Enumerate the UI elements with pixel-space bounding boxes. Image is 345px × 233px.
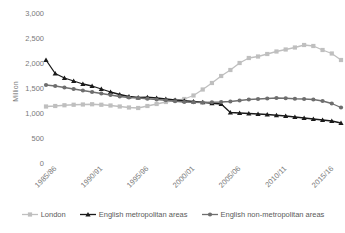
y-axis-tick-label: 0: [0, 159, 44, 168]
data-point-marker: [127, 95, 131, 99]
data-point-marker: [173, 99, 177, 103]
legend-marker-icon: [201, 210, 219, 219]
data-point-marker: [72, 87, 76, 91]
data-point-marker: [155, 97, 159, 101]
data-point-marker: [201, 87, 205, 91]
data-point-marker: [90, 102, 94, 106]
data-point-marker: [228, 68, 232, 72]
y-axis-tick-label: 2,500: [0, 34, 44, 43]
data-point-marker: [118, 94, 122, 98]
plot-area: [46, 14, 341, 164]
x-axis-tick-label: 2015/16: [296, 164, 335, 203]
data-point-marker: [191, 100, 195, 104]
data-point-marker: [330, 101, 334, 105]
data-point-marker: [219, 74, 223, 78]
data-point-marker: [265, 52, 269, 56]
data-point-marker: [108, 93, 112, 97]
data-point-marker: [265, 96, 269, 100]
data-point-marker: [155, 102, 159, 106]
data-point-marker: [62, 103, 66, 107]
data-point-marker: [53, 84, 57, 88]
y-axis-tick-label: 2,000: [0, 59, 44, 68]
data-point-marker: [201, 100, 205, 104]
data-point-marker: [219, 100, 223, 104]
data-point-marker: [339, 105, 343, 109]
data-point-marker: [247, 97, 251, 101]
data-point-marker: [43, 57, 48, 62]
data-point-marker: [118, 104, 122, 108]
data-point-marker: [320, 99, 324, 103]
y-axis-tick-label: 500: [0, 134, 44, 143]
data-point-marker: [99, 103, 103, 107]
data-point-marker: [81, 102, 85, 106]
data-point-marker: [145, 97, 149, 101]
data-point-marker: [145, 104, 149, 108]
data-point-marker: [44, 104, 48, 108]
data-point-marker: [72, 103, 76, 107]
legend-item-london[interactable]: London: [21, 210, 66, 219]
x-axis-tick-labels: 1985/861990/911995/962000/012005/062010/…: [46, 164, 341, 206]
legend-item-english-metropolitan-areas[interactable]: English metropolitan areas: [79, 210, 188, 219]
data-point-marker: [237, 61, 241, 65]
legend-marker-icon: [21, 210, 39, 219]
data-point-marker: [339, 58, 343, 62]
data-point-marker: [62, 85, 66, 89]
y-axis-tick-label: 1,000: [0, 109, 44, 118]
data-point-marker: [311, 44, 315, 48]
data-point-marker: [44, 83, 48, 87]
data-point-marker: [293, 97, 297, 101]
data-point-marker: [274, 96, 278, 100]
legend-item-label: English metropolitan areas: [99, 210, 188, 219]
data-point-marker: [191, 93, 195, 97]
data-point-marker: [302, 97, 306, 101]
x-axis-tick-label: 2010/11: [250, 164, 289, 203]
x-axis-tick-label: 2000/01: [158, 164, 197, 203]
data-point-marker: [284, 96, 288, 100]
data-point-marker: [237, 98, 241, 102]
data-point-marker: [108, 103, 112, 107]
data-point-marker: [164, 98, 168, 102]
data-point-marker: [284, 47, 288, 51]
chart-legend: LondonEnglish metropolitan areasEnglish …: [0, 210, 345, 219]
data-point-marker: [302, 43, 306, 47]
plot-svg: [46, 14, 341, 164]
data-point-marker: [136, 96, 140, 100]
data-point-marker: [28, 212, 32, 216]
y-axis-tick-label: 3,000: [0, 9, 44, 18]
data-point-marker: [320, 48, 324, 52]
data-point-marker: [330, 51, 334, 55]
data-point-marker: [182, 100, 186, 104]
data-point-marker: [256, 54, 260, 58]
x-axis-tick-label: 1990/91: [66, 164, 105, 203]
x-axis-tick-label: 2005/06: [204, 164, 243, 203]
legend-item-label: London: [41, 210, 66, 219]
data-point-marker: [293, 45, 297, 49]
data-point-marker: [207, 212, 211, 216]
y-axis-tick-label: 1,500: [0, 84, 44, 93]
legend-marker-icon: [79, 210, 97, 219]
x-axis-tick-label: 1995/96: [112, 164, 151, 203]
data-point-marker: [136, 106, 140, 110]
data-point-marker: [81, 88, 85, 92]
data-point-marker: [247, 56, 251, 60]
data-point-marker: [90, 90, 94, 94]
legend-item-english-non-metropolitan-areas[interactable]: English non-metropolitan areas: [201, 210, 325, 219]
data-point-marker: [99, 91, 103, 95]
line-chart: Million 05001,0001,5002,0002,5003,000 19…: [0, 0, 345, 233]
data-point-marker: [53, 104, 57, 108]
data-point-marker: [256, 97, 260, 101]
data-point-marker: [311, 97, 315, 101]
data-point-marker: [210, 100, 214, 104]
data-point-marker: [228, 99, 232, 103]
legend-item-label: English non-metropolitan areas: [221, 210, 325, 219]
data-point-marker: [127, 105, 131, 109]
data-point-marker: [210, 81, 214, 85]
data-point-marker: [274, 49, 278, 53]
